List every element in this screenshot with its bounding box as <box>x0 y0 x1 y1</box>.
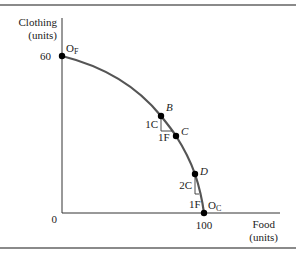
y-axis-label-line1: Clothing <box>18 16 57 28</box>
step1-c-label: 1C <box>145 118 158 130</box>
y-tick-60: 60 <box>40 50 52 62</box>
x-axis-label-line2: (units) <box>249 231 278 244</box>
step2-c-label: 2C <box>179 179 192 191</box>
point-oc <box>201 210 207 216</box>
origin-label: 0 <box>52 213 58 225</box>
point-b <box>158 113 164 119</box>
ppf-chart: Clothing (units) Food (units) 60 100 0 O… <box>0 0 296 254</box>
label-d: D <box>199 165 208 177</box>
step2-f-label: 1F <box>189 198 201 210</box>
point-c <box>173 133 179 139</box>
point-of <box>59 53 65 59</box>
label-of: OF <box>66 42 79 56</box>
label-b: B <box>166 101 173 113</box>
label-oc: OC <box>208 199 221 213</box>
step1-f-label: 1F <box>158 131 170 143</box>
point-d <box>192 171 198 177</box>
y-axis-label-line2: (units) <box>28 29 57 42</box>
x-tick-100: 100 <box>196 219 213 231</box>
label-c: C <box>181 125 189 137</box>
x-axis-label-line1: Food <box>252 218 275 230</box>
